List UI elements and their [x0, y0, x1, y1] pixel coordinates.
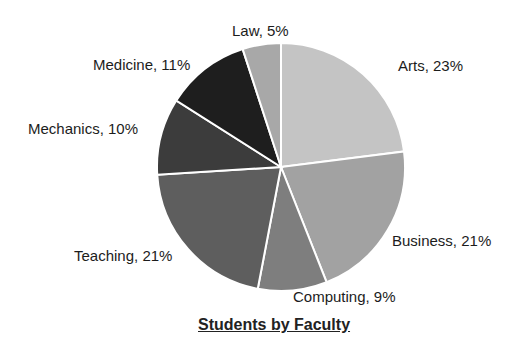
- label-teaching: Teaching, 21%: [74, 247, 172, 264]
- label-mechanics: Mechanics, 10%: [28, 120, 138, 137]
- pie-chart: [0, 0, 526, 352]
- label-business: Business, 21%: [392, 232, 491, 249]
- label-computing: Computing, 9%: [293, 288, 396, 305]
- pie-slice-arts: [281, 43, 404, 167]
- label-medicine: Medicine, 11%: [93, 56, 190, 73]
- label-arts: Arts, 23%: [398, 57, 463, 74]
- chart-title: Students by Faculty: [198, 316, 350, 334]
- label-law: Law, 5%: [232, 22, 289, 39]
